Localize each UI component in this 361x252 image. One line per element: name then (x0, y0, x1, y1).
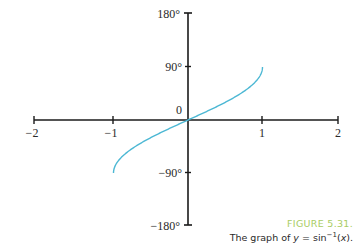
x-tick-label-neg1: −1 (105, 126, 118, 140)
caption-superscript: −1 (327, 231, 337, 239)
x-tick-label-2: 2 (335, 126, 341, 140)
caption-mid: = sin (299, 232, 327, 243)
y-tick-label-neg180: −180° (150, 219, 180, 233)
figure-caption: The graph of y = sin−1(x). (230, 231, 353, 243)
y-tick-label-90: 90° (165, 60, 182, 74)
y-tick-label-180: 180° (157, 7, 180, 21)
caption-prefix: The graph of (230, 232, 294, 243)
x-tick-label-neg2: −2 (26, 126, 39, 140)
x-tick-label-1: 1 (259, 126, 265, 140)
chart-plot-area: 180° 90° −90° −180° 0 −2 −1 1 2 (0, 0, 361, 252)
caption-close: ). (346, 232, 353, 243)
origin-label: 0 (176, 103, 182, 117)
y-tick-label-neg90: −90° (158, 166, 182, 180)
figure-number: FIGURE 5.31. (287, 218, 353, 229)
